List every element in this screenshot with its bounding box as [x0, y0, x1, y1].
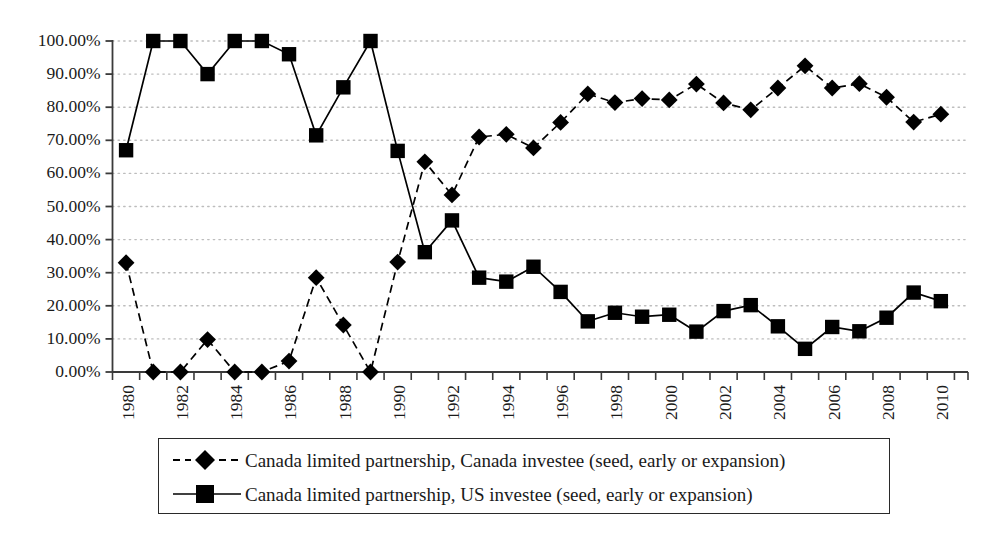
x-axis-tick-label: 1990	[391, 385, 409, 420]
x-axis-tick-label: 1988	[337, 385, 355, 420]
y-axis-tick-label: 10.00%	[47, 330, 101, 348]
x-axis-tick-label: 2000	[663, 385, 681, 420]
x-axis-tick-label: 1998	[608, 385, 626, 420]
x-axis-tick-label: 2008	[880, 385, 898, 420]
x-axis-tick-label: 1992	[445, 385, 463, 420]
x-axis-tick-label: 2006	[826, 385, 844, 420]
x-axis-tick-label: 1986	[282, 385, 300, 420]
legend-label-canada-investee: Canada limited partnership, Canada inves…	[245, 451, 785, 470]
y-axis-tick-label: 40.00%	[47, 231, 101, 249]
chart-legend: Canada limited partnership, Canada inves…	[158, 438, 890, 514]
y-axis-tick-label: 100.00%	[38, 32, 101, 50]
y-axis-tick-label: 90.00%	[47, 65, 101, 83]
x-axis-tick-label: 2004	[771, 385, 789, 420]
y-axis-tick-label: 50.00%	[47, 198, 101, 216]
x-axis-tick-label: 1982	[174, 385, 192, 420]
y-axis-tick-label: 70.00%	[47, 131, 101, 149]
y-axis-tick-label: 60.00%	[47, 164, 101, 182]
legend-entry-canada-investee: Canada limited partnership, Canada inves…	[159, 443, 889, 477]
chart-figure: 100.00%90.00%80.00%70.00%60.00%50.00%40.…	[0, 0, 995, 540]
x-axis-tick-label: 1996	[554, 385, 572, 420]
legend-key-diamond-dashed-icon	[169, 445, 245, 475]
y-axis-tick-label: 20.00%	[47, 297, 101, 315]
x-axis-tick-label: 2010	[934, 385, 952, 420]
x-axis-tick-label: 1980	[120, 385, 138, 420]
y-axis-tick-label: 0.00%	[55, 363, 100, 381]
legend-entry-us-investee: Canada limited partnership, US investee …	[159, 477, 889, 511]
legend-label-us-investee: Canada limited partnership, US investee …	[245, 485, 753, 504]
y-axis-tick-label: 80.00%	[47, 98, 101, 116]
legend-key-square-solid-icon	[169, 479, 245, 509]
y-axis-tick-label: 30.00%	[47, 264, 101, 282]
x-axis-tick-label: 2002	[717, 385, 735, 420]
x-axis-tick-label: 1994	[500, 385, 518, 420]
x-axis-tick-label: 1984	[228, 385, 246, 420]
